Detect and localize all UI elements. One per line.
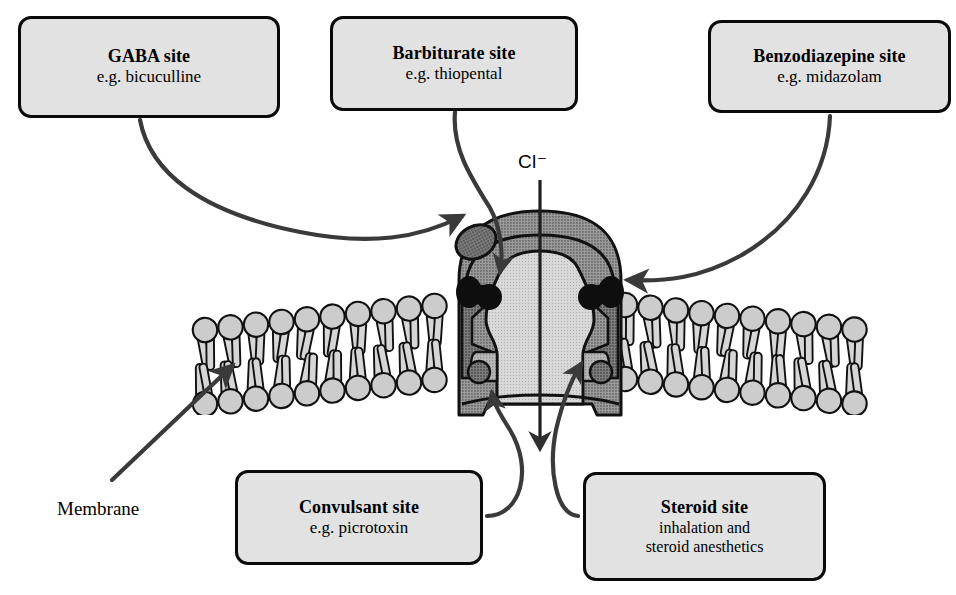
lipid-head-group bbox=[689, 300, 714, 325]
diagram-canvas: GABA site e.g. bicuculline Barbiturate s… bbox=[0, 0, 956, 595]
phospholipid-molecule bbox=[840, 362, 867, 416]
lipid-head-group bbox=[422, 293, 447, 318]
binding-dot-right-inner bbox=[578, 284, 604, 310]
phospholipid-molecule bbox=[637, 294, 668, 349]
connector-benzodiazepine[interactable] bbox=[628, 116, 830, 280]
phospholipid-molecule bbox=[269, 355, 297, 409]
connector-gaba[interactable] bbox=[140, 120, 462, 239]
label-box-steroid-site[interactable]: Steroid site inhalation and steroid anes… bbox=[583, 472, 826, 581]
gaba-receptor-protein bbox=[450, 211, 624, 415]
steroid-site-title: Steroid site bbox=[661, 497, 748, 518]
phospholipid-molecule bbox=[293, 351, 324, 406]
phospholipid-molecule bbox=[787, 356, 816, 411]
lipid-head-group bbox=[739, 305, 766, 332]
phospholipid-molecule bbox=[290, 306, 321, 361]
phospholipid-molecule bbox=[319, 349, 348, 404]
steroid-binding-circle-right bbox=[590, 361, 612, 383]
lipid-head-group bbox=[422, 367, 447, 392]
steroid-site-subtitle-line2: steroid anesthetics bbox=[646, 537, 764, 556]
phospholipid-molecule bbox=[710, 302, 740, 357]
lipid-head-group bbox=[243, 312, 268, 337]
convulsant-site-subtitle: e.g. picrotoxin bbox=[310, 518, 409, 538]
phospholipid-molecule bbox=[766, 355, 791, 408]
gaba-site-title: GABA site bbox=[108, 46, 190, 67]
phospholipid-molecule bbox=[739, 351, 769, 406]
phospholipid-molecule bbox=[396, 295, 426, 350]
benzodiazepine-site-title: Benzodiazepine site bbox=[753, 46, 905, 67]
lipid-head-group bbox=[319, 377, 345, 403]
barbiturate-site-title: Barbiturate site bbox=[392, 43, 515, 64]
phospholipid-molecule bbox=[345, 347, 371, 400]
steroid-site-subtitle-line1: inhalation and bbox=[659, 518, 750, 537]
lipid-head-group bbox=[842, 391, 867, 416]
phospholipid-molecule bbox=[393, 341, 423, 396]
phospholipid-molecule bbox=[192, 317, 221, 372]
lipid-head-group bbox=[269, 309, 295, 335]
lipid-head-group bbox=[689, 374, 714, 399]
lipid-head-group bbox=[663, 371, 689, 397]
phospholipid-molecule bbox=[812, 359, 842, 414]
phospholipid-molecule bbox=[370, 298, 400, 353]
label-box-convulsant-site[interactable]: Convulsant site e.g. picrotoxin bbox=[235, 470, 483, 565]
lipid-head-group bbox=[790, 385, 817, 412]
benzodiazepine-site-subtitle: e.g. midazolam bbox=[777, 67, 881, 87]
phospholipid-molecule bbox=[689, 346, 716, 400]
convulsant-binding-circle-left bbox=[468, 361, 490, 383]
lipid-head-group bbox=[842, 317, 867, 342]
phospholipid-molecule bbox=[766, 309, 791, 362]
membrane-label: Membrane bbox=[57, 498, 139, 520]
phospholipid-molecule bbox=[217, 314, 247, 369]
lipid-head-group bbox=[345, 375, 370, 400]
phospholipid-molecule bbox=[189, 362, 218, 417]
lipid-head-group bbox=[243, 386, 268, 411]
lipid-head-group bbox=[790, 311, 817, 338]
label-box-gaba-site[interactable]: GABA site e.g. bicuculline bbox=[18, 16, 280, 118]
binding-dot-left-inner bbox=[476, 284, 502, 310]
connector-convulsant[interactable] bbox=[487, 393, 522, 516]
convulsant-site-title: Convulsant site bbox=[299, 497, 419, 518]
phospholipid-molecule bbox=[790, 311, 819, 366]
phospholipid-molecule bbox=[242, 358, 269, 412]
lipid-head-group bbox=[319, 303, 345, 329]
lipid-head-group bbox=[192, 391, 219, 418]
lipid-head-group bbox=[739, 379, 766, 406]
lipid-head-group bbox=[766, 383, 790, 407]
phospholipid-molecule bbox=[422, 339, 447, 392]
chloride-ion-label: Cl⁻ bbox=[518, 150, 547, 173]
lipid-head-group bbox=[345, 301, 370, 326]
phospholipid-molecule bbox=[661, 343, 689, 397]
lipid-head-group bbox=[192, 317, 219, 344]
phospholipid-molecule bbox=[367, 344, 397, 399]
gaba-site-subtitle: e.g. bicuculline bbox=[97, 67, 201, 87]
phospholipid-molecule bbox=[815, 313, 845, 368]
lipid-head-group bbox=[663, 297, 689, 323]
label-box-benzodiazepine-site[interactable]: Benzodiazepine site e.g. midazolam bbox=[708, 20, 951, 113]
connector-membrane[interactable] bbox=[112, 366, 232, 480]
phospholipid-molecule bbox=[713, 348, 743, 403]
phospholipid-molecule bbox=[736, 305, 766, 360]
lipid-head-group bbox=[766, 309, 790, 333]
phospholipid-molecule bbox=[633, 340, 664, 395]
label-box-barbiturate-site[interactable]: Barbiturate site e.g. thiopental bbox=[330, 16, 578, 111]
lipid-head-group bbox=[269, 383, 295, 409]
barbiturate-site-subtitle: e.g. thiopental bbox=[406, 64, 503, 84]
